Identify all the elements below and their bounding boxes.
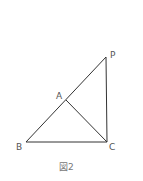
label-c: C [109, 142, 115, 152]
triangle-lines [26, 57, 107, 142]
label-a: A [56, 91, 63, 101]
segment-pc [106, 57, 107, 142]
label-p: P [110, 50, 116, 60]
segment-ac [66, 100, 107, 142]
label-b: B [16, 142, 22, 152]
figure-caption: 図2 [59, 162, 74, 172]
figure-2-diagram: P A B C 図2 [0, 0, 143, 181]
